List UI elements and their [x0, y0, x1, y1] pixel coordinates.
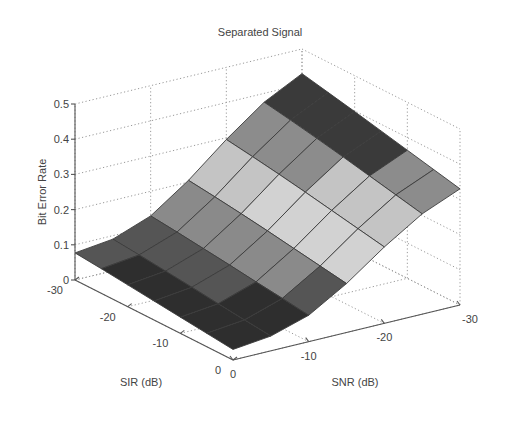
surface-plot-figure: 00.10.20.30.40.5-30-20-1000-10-20-30 Sep…	[0, 0, 510, 424]
surface-mesh	[75, 74, 460, 350]
x-tick-label: 0	[215, 364, 221, 376]
x-tick	[180, 330, 184, 333]
y-axis-label: SNR (dB)	[331, 376, 378, 388]
x-tick	[128, 304, 132, 307]
z-tick-label: 0.3	[54, 168, 69, 180]
x-tick-label: -30	[47, 284, 63, 296]
y-tick	[306, 338, 309, 342]
z-tick-label: 0.2	[54, 204, 69, 216]
y-tick-label: -20	[376, 331, 392, 343]
z-tick-label: 0.5	[54, 98, 69, 110]
z-axis-label: Bit Error Rate	[36, 159, 48, 226]
x-tick-label: -20	[100, 311, 116, 323]
z-tick-label: 0.1	[54, 239, 69, 251]
y-tick	[381, 319, 384, 323]
x-tick	[75, 277, 79, 280]
y-tick-label: 0	[230, 368, 236, 380]
y-tick-label: -10	[301, 350, 317, 362]
z-tick-label: 0.4	[54, 133, 69, 145]
z-tick-label: 0	[63, 274, 69, 286]
chart-title: Separated Signal	[218, 26, 302, 38]
x-tick-label: -10	[152, 337, 168, 349]
y-tick	[457, 301, 460, 305]
y-tick-label: -30	[462, 313, 478, 325]
grid-line	[75, 49, 302, 104]
surface-plot: 00.10.20.30.40.5-30-20-1000-10-20-30 Sep…	[0, 0, 510, 424]
x-axis-label: SIR (dB)	[120, 376, 162, 388]
